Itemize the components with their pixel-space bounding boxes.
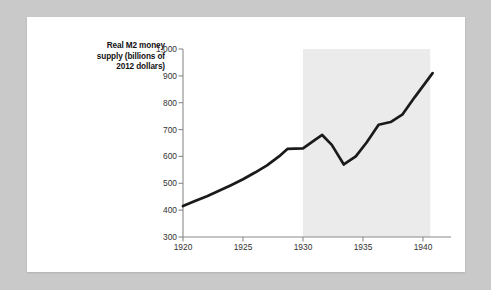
- chart-plot-area: Real M2 money supply (billions of 2012 d…: [27, 17, 465, 272]
- chart-svg: [27, 17, 465, 272]
- figure-card: Real M2 money supply (billions of 2012 d…: [27, 17, 465, 272]
